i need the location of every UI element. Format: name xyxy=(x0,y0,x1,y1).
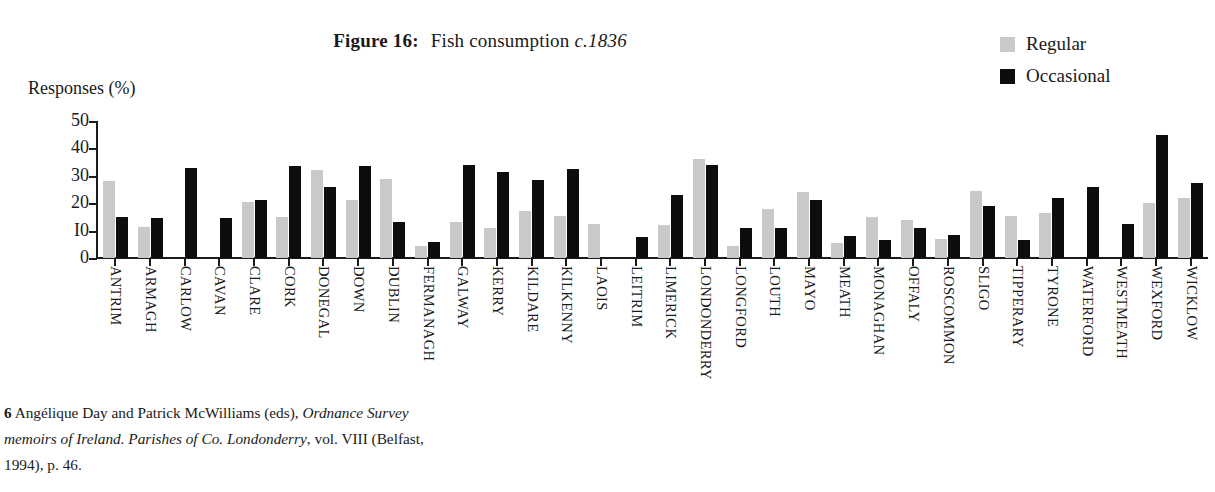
bar-group[interactable] xyxy=(445,121,480,258)
bar-group[interactable] xyxy=(549,121,584,258)
bar-regular[interactable] xyxy=(797,192,809,258)
bar-occasional[interactable] xyxy=(151,218,163,258)
bar-group[interactable] xyxy=(1139,121,1174,258)
bar-group[interactable] xyxy=(167,121,202,258)
bar-regular[interactable] xyxy=(693,159,705,258)
bar-regular[interactable] xyxy=(866,217,878,258)
bar-regular[interactable] xyxy=(138,227,150,259)
x-tick-cell xyxy=(306,259,341,266)
x-label-cell: ANTRIM xyxy=(98,266,133,378)
bar-regular[interactable] xyxy=(1039,213,1051,258)
bar-regular[interactable] xyxy=(935,239,947,258)
bar-regular[interactable] xyxy=(554,216,566,258)
bar-group[interactable] xyxy=(792,121,827,258)
x-tick-cell xyxy=(376,259,411,266)
bar-occasional[interactable] xyxy=(497,172,509,258)
x-tick-mark xyxy=(808,259,810,266)
bar-group[interactable] xyxy=(514,121,549,258)
bar-occasional[interactable] xyxy=(775,228,787,258)
bar-occasional[interactable] xyxy=(671,195,683,258)
bar-occasional[interactable] xyxy=(1018,240,1030,258)
bar-occasional[interactable] xyxy=(810,200,822,258)
bar-group[interactable] xyxy=(480,121,515,258)
bar-occasional[interactable] xyxy=(220,218,232,258)
bar-occasional[interactable] xyxy=(706,165,718,258)
bar-group[interactable] xyxy=(1035,121,1070,258)
bar-occasional[interactable] xyxy=(393,222,405,258)
bar-group[interactable] xyxy=(1104,121,1139,258)
bar-group[interactable] xyxy=(757,121,792,258)
bar-regular[interactable] xyxy=(276,217,288,258)
bar-regular[interactable] xyxy=(1143,203,1155,258)
bar-occasional[interactable] xyxy=(185,168,197,258)
bar-group[interactable] xyxy=(688,121,723,258)
x-label-cell: CAVAN xyxy=(202,266,237,378)
bar-group[interactable] xyxy=(341,121,376,258)
bar-group[interactable] xyxy=(1000,121,1035,258)
bar-group[interactable] xyxy=(965,121,1000,258)
bar-group[interactable] xyxy=(271,121,306,258)
x-axis-tick-label: WEXFORD xyxy=(1147,266,1164,341)
bar-occasional[interactable] xyxy=(532,180,544,258)
bar-regular[interactable] xyxy=(415,246,427,258)
bar-occasional[interactable] xyxy=(567,169,579,258)
bar-occasional[interactable] xyxy=(1156,135,1168,258)
bar-group[interactable] xyxy=(584,121,619,258)
bar-group[interactable] xyxy=(931,121,966,258)
bar-group[interactable] xyxy=(1069,121,1104,258)
bar-regular[interactable] xyxy=(1005,216,1017,258)
bar-regular[interactable] xyxy=(658,225,670,258)
bar-regular[interactable] xyxy=(727,246,739,258)
bar-group[interactable] xyxy=(202,121,237,258)
bar-regular[interactable] xyxy=(380,179,392,258)
bar-occasional[interactable] xyxy=(1191,183,1203,258)
bar-occasional[interactable] xyxy=(255,200,267,258)
bar-occasional[interactable] xyxy=(428,242,440,258)
bar-occasional[interactable] xyxy=(948,235,960,258)
bar-occasional[interactable] xyxy=(844,236,856,258)
bar-occasional[interactable] xyxy=(1087,187,1099,258)
bar-group[interactable] xyxy=(133,121,168,258)
bar-occasional[interactable] xyxy=(914,228,926,258)
bar-group[interactable] xyxy=(98,121,133,258)
bar-group[interactable] xyxy=(376,121,411,258)
x-axis-tick-label: MONAGHAN xyxy=(870,266,887,355)
bar-occasional[interactable] xyxy=(1122,224,1134,258)
bar-occasional[interactable] xyxy=(1052,198,1064,258)
bar-group[interactable] xyxy=(896,121,931,258)
bar-occasional[interactable] xyxy=(116,217,128,258)
bar-regular[interactable] xyxy=(311,170,323,258)
bar-regular[interactable] xyxy=(588,224,600,258)
bar-regular[interactable] xyxy=(484,228,496,258)
bar-regular[interactable] xyxy=(762,209,774,258)
bar-regular[interactable] xyxy=(519,211,531,258)
bar-occasional[interactable] xyxy=(324,187,336,258)
bar-regular[interactable] xyxy=(1178,198,1190,258)
bar-group[interactable] xyxy=(653,121,688,258)
bar-group[interactable] xyxy=(237,121,272,258)
bar-group[interactable] xyxy=(410,121,445,258)
bar-group[interactable] xyxy=(722,121,757,258)
x-axis-tick-label: WICKLOW xyxy=(1182,266,1199,340)
bar-occasional[interactable] xyxy=(463,165,475,258)
bar-group[interactable] xyxy=(1173,121,1208,258)
bar-regular[interactable] xyxy=(970,191,982,258)
bar-regular[interactable] xyxy=(242,202,254,258)
bar-group[interactable] xyxy=(306,121,341,258)
bar-occasional[interactable] xyxy=(740,228,752,258)
x-tick-cell xyxy=(722,259,757,266)
bar-regular[interactable] xyxy=(103,181,115,258)
bar-regular[interactable] xyxy=(346,200,358,258)
y-tick-mark xyxy=(89,258,97,260)
bar-occasional[interactable] xyxy=(289,166,301,258)
bar-occasional[interactable] xyxy=(879,240,891,258)
bar-group[interactable] xyxy=(861,121,896,258)
bar-regular[interactable] xyxy=(901,220,913,258)
bar-group[interactable] xyxy=(826,121,861,258)
bar-group[interactable] xyxy=(618,121,653,258)
bar-occasional[interactable] xyxy=(359,166,371,258)
bar-occasional[interactable] xyxy=(636,237,648,258)
bar-regular[interactable] xyxy=(450,222,462,258)
bar-regular[interactable] xyxy=(831,243,843,258)
bar-occasional[interactable] xyxy=(983,206,995,258)
